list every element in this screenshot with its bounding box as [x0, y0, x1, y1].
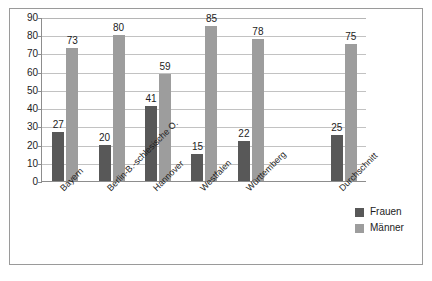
y-axis-tick-label: 60 — [12, 68, 38, 78]
y-axis-tick-label: 40 — [12, 104, 38, 114]
bar-group: 2080 — [88, 18, 134, 181]
bar-männer-1[interactable] — [66, 48, 78, 181]
legend-label: Männer — [370, 223, 404, 233]
y-axis-tick-label: 30 — [12, 122, 38, 132]
bar-frauen-2[interactable] — [99, 145, 111, 181]
chart-figure: 0102030405060708090 27732080415915852278… — [9, 8, 423, 265]
bar-männer-4[interactable] — [205, 26, 217, 181]
y-axis-tick-label: 10 — [12, 159, 38, 169]
legend-swatch-icon — [355, 208, 364, 217]
bar-frauen-5[interactable] — [238, 141, 250, 181]
bar-frauen-6[interactable] — [331, 135, 343, 181]
y-axis-tick-label: 70 — [12, 49, 38, 59]
legend-item-frauen[interactable]: Frauen — [355, 207, 421, 217]
y-axis-tick-label: 90 — [12, 13, 38, 23]
x-axis: BayernBerlin-B.-schlesische O.HannoverWe… — [41, 182, 366, 262]
bar-group: 2575 — [321, 18, 367, 181]
bar-frauen-1[interactable] — [52, 132, 64, 181]
bar-group: 1585 — [181, 18, 227, 181]
bar-group: 2773 — [42, 18, 88, 181]
bar-value-label: 75 — [339, 32, 363, 42]
bar-frauen-4[interactable] — [191, 154, 203, 181]
y-axis: 0102030405060708090 — [10, 18, 38, 182]
bar-value-label: 80 — [107, 23, 131, 33]
legend-swatch-icon — [355, 224, 364, 233]
bar-männer-2[interactable] — [113, 35, 125, 181]
bar-männer-6[interactable] — [345, 44, 357, 181]
bar-group: 2278 — [228, 18, 274, 181]
legend-item-männer[interactable]: Männer — [355, 223, 421, 233]
bar-value-label: 73 — [60, 36, 84, 46]
bar-männer-5[interactable] — [252, 39, 264, 181]
bar-value-label: 85 — [199, 14, 223, 24]
y-axis-tick-label: 50 — [12, 86, 38, 96]
bar-value-label: 78 — [246, 27, 270, 37]
legend-label: Frauen — [370, 207, 402, 217]
chart-legend: FrauenMänner — [355, 207, 421, 239]
y-axis-tick-label: 0 — [12, 177, 38, 187]
bar-value-label: 59 — [153, 62, 177, 72]
plot-area: 277320804159158522782575 — [41, 18, 366, 182]
y-axis-tick-label: 80 — [12, 31, 38, 41]
y-axis-tick-label: 20 — [12, 141, 38, 151]
